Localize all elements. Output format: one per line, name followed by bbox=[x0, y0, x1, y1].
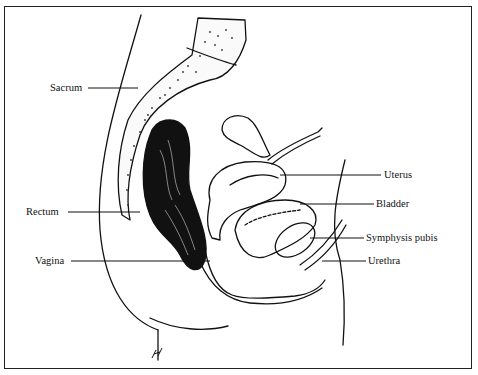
label-vagina: Vagina bbox=[35, 255, 64, 267]
ovary bbox=[222, 116, 270, 157]
label-uterus: Uterus bbox=[384, 169, 412, 181]
fallopian-tube bbox=[268, 128, 322, 160]
label-rectum: Rectum bbox=[26, 206, 59, 218]
pelvis-illustration bbox=[0, 0, 478, 375]
rectum bbox=[143, 120, 206, 270]
label-urethra: Urethra bbox=[368, 255, 400, 267]
label-sacrum: Sacrum bbox=[50, 82, 82, 94]
front-contour bbox=[335, 160, 345, 345]
label-symphysis-pubis: Symphysis pubis bbox=[366, 232, 437, 244]
symphysis-pubis bbox=[269, 216, 321, 264]
label-bladder: Bladder bbox=[376, 198, 409, 210]
artist-signature bbox=[152, 348, 162, 358]
